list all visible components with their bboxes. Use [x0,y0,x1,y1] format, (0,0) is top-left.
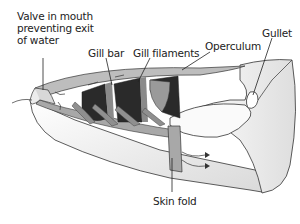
operculum-label: Operculum [205,40,261,52]
skin-fold-shape [168,126,182,172]
skin-fold-label: Skin fold [153,195,197,207]
gill-bar-label: Gill bar [88,47,124,59]
valve-label: Valve in mouth preventing exit of water [17,10,94,46]
gill-filaments-label: Gill filaments [133,47,199,59]
gullet-label: Gullet [262,27,292,39]
